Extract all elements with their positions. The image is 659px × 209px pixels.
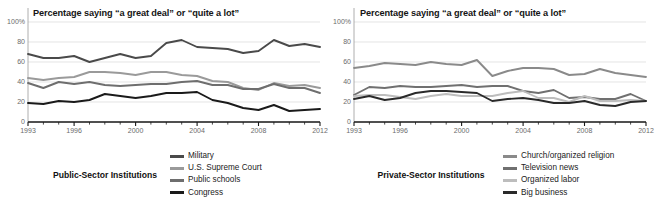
x-axis-tick-label: 2000 [122, 127, 150, 134]
legend-color-swatch [170, 167, 184, 170]
x-axis-tick-label: 2008 [571, 127, 599, 134]
caption-private-sector: Private-Sector Institutions [356, 170, 506, 180]
legend-series-label: Church/organized religion [521, 152, 614, 160]
x-axis-tick-label: 2012 [632, 127, 659, 134]
y-axis-tick-label: 40 [343, 78, 351, 85]
y-axis-tick-label: 80 [343, 38, 351, 45]
chart-public-sector-title: Percentage saying “a great deal” or “qui… [33, 8, 239, 18]
legend-color-swatch [170, 191, 184, 194]
chart-public-sector-svg [0, 0, 326, 148]
legend-color-swatch [170, 179, 184, 182]
panel-public-sector: Percentage saying “a great deal” or “qui… [0, 0, 326, 209]
legend-item[interactable]: Military [170, 150, 262, 162]
legend-series-label: Military [188, 152, 214, 160]
legend-series-label: U.S. Supreme Court [188, 164, 262, 172]
legend-color-swatch [503, 155, 517, 158]
legend-color-swatch [503, 191, 517, 194]
y-axis-tick-label: 20 [343, 98, 351, 105]
legend-item[interactable]: Television news [503, 162, 614, 174]
y-axis-tick-label: 60 [17, 58, 25, 65]
x-axis-tick-label: 1996 [60, 127, 88, 134]
y-axis-tick-label: 0 [21, 118, 25, 125]
legend-item[interactable]: Organized labor [503, 174, 614, 186]
chart-private-sector-svg [326, 0, 652, 148]
chart-private-sector-title: Percentage saying “a great deal” or “qui… [360, 8, 566, 18]
panel-private-sector: Percentage saying “a great deal” or “qui… [326, 0, 652, 209]
legend-private-sector: Church/organized religionTelevision news… [503, 150, 614, 199]
legend-series-label: Television news [521, 164, 578, 172]
x-axis-tick-label: 1993 [340, 127, 368, 134]
x-axis-tick-label: 2000 [448, 127, 476, 134]
legend-series-label: Congress [188, 189, 223, 197]
x-axis-tick-label: 2004 [183, 127, 211, 134]
x-axis-tick-label: 2004 [509, 127, 537, 134]
x-axis-tick-label: 1993 [14, 127, 42, 134]
y-axis-tick-label: 0 [347, 118, 351, 125]
legend-item[interactable]: Public schools [170, 174, 262, 186]
panel-public-sector-footer: Public-Sector Institutions MilitaryU.S. … [0, 148, 326, 209]
legend-color-swatch [503, 179, 517, 182]
legend-series-label: Organized labor [521, 176, 579, 184]
legend-item[interactable]: Big business [503, 187, 614, 199]
legend-public-sector: MilitaryU.S. Supreme CourtPublic schools… [170, 150, 262, 199]
chart-public-sector: Percentage saying “a great deal” or “qui… [0, 0, 326, 148]
legend-color-swatch [503, 167, 517, 170]
legend-item[interactable]: Church/organized religion [503, 150, 614, 162]
legend-item[interactable]: U.S. Supreme Court [170, 162, 262, 174]
legend-series-label: Big business [521, 189, 567, 197]
y-axis-tick-label: 20 [17, 98, 25, 105]
y-axis-tick-label: 80 [17, 38, 25, 45]
chart-private-sector: Percentage saying “a great deal” or “qui… [326, 0, 652, 148]
y-axis-tick-label: 100% [7, 18, 25, 25]
caption-public-sector: Public-Sector Institutions [40, 170, 170, 180]
y-axis-tick-label: 100% [333, 18, 351, 25]
panel-private-sector-footer: Private-Sector Institutions Church/organ… [326, 148, 652, 209]
x-axis-tick-label: 2008 [245, 127, 273, 134]
x-axis-tick-label: 1996 [386, 127, 414, 134]
y-axis-tick-label: 60 [343, 58, 351, 65]
legend-color-swatch [170, 155, 184, 158]
legend-item[interactable]: Congress [170, 187, 262, 199]
y-axis-tick-label: 40 [17, 78, 25, 85]
legend-series-label: Public schools [188, 176, 240, 184]
